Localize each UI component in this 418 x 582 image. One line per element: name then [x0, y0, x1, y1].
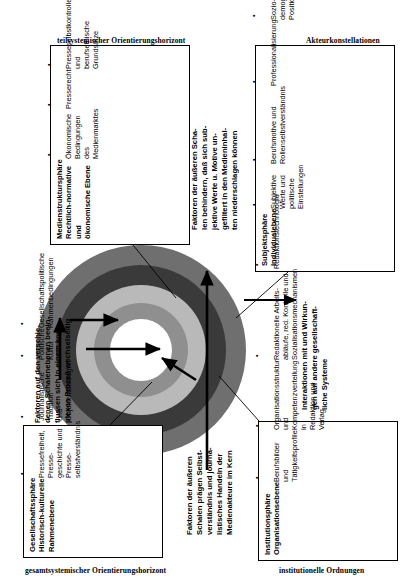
list-item-label: Presseselbstkontrolle und berufsethische… — [55, 0, 100, 69]
bullet-icon: • — [18, 415, 27, 417]
list-item: •Berufsbilder und Tätigkeitsprofile — [263, 430, 391, 482]
list-item-label: Berufsbilder und Tätigkeitsprofile — [263, 430, 299, 482]
bullet-icon: • — [250, 81, 259, 83]
box-heading-institutionssphaere: Institutionsphäre Organisationsebene — [263, 482, 390, 555]
bullet-icon: • — [253, 476, 262, 478]
bullet-icon: • — [250, 159, 259, 161]
list-item-label: Presserecht — [55, 69, 73, 108]
list-item: •Ökonomische Bedingungen des Medienmarkt… — [55, 109, 183, 160]
bullet-icon: • — [18, 472, 27, 474]
list-item-label: Redaktionstechnologie — [263, 194, 281, 269]
bullet-icon: • — [45, 154, 54, 156]
list-item: •Professionalisierung — [260, 20, 388, 87]
list-item: •Redaktionstechnologie — [263, 194, 391, 269]
list-item-label: Ökonomische Bedingungen des Medienmarkte… — [55, 109, 100, 160]
annotation-schalenebenen: Faktoren auf den verschie- denen Schalen… — [33, 258, 73, 423]
list-item: •Pressefreiheit, Presse- geschichte und … — [28, 421, 156, 478]
bullet-icon: • — [18, 323, 27, 325]
list-item-label: Redaktionelle Arbeits- abläufe, red. Kon… — [263, 269, 299, 360]
list-item: •Sozio-demographische Position — [260, 0, 388, 20]
bullet-icon: • — [45, 103, 54, 105]
arrow-into-core — [162, 358, 196, 380]
bullet-icon: • — [45, 64, 54, 66]
list-item: •Presserecht — [55, 69, 183, 108]
list-item: •Berufsmotive und Rollenselbstverständni… — [260, 86, 388, 164]
box-list-subjektsphaere: •Subjektive Werte und politische Einstel… — [260, 0, 390, 209]
box-medienstruktursphaere[interactable]: Medienstruktursphäre Rechtlich-normative… — [50, 45, 190, 245]
bullet-icon: • — [250, 203, 259, 205]
list-item-label: Pressefreiheit, Presse- geschichte und P… — [28, 421, 82, 478]
bullet-icon: • — [253, 263, 262, 265]
annotation-interaktionen: Interaktionen mit und Wirkun- gen auf an… — [300, 290, 330, 410]
list-item-label: Berufsmotive und Rollenselbstverständnis — [260, 86, 287, 164]
list-item-label: Sozio-demographische Position — [260, 0, 296, 20]
list-item-label: Professionalisierung — [260, 20, 278, 87]
bullet-icon: • — [253, 425, 262, 427]
box-list-medienstruktursphaere: •Ökonomische Bedingungen des Medienmarkt… — [55, 0, 185, 159]
box-institutionssphaere[interactable]: Institutionsphäre Organisationsebene •Be… — [258, 421, 398, 561]
bullet-icon: • — [18, 354, 27, 356]
box-heading-gesellschaftssphaere: Gesellschaftssphäre Historisch-kulturell… — [28, 478, 155, 552]
box-gesellschaftssphaere[interactable]: Gesellschaftssphäre Historisch-kulturell… — [23, 425, 163, 558]
annotation-aussere-schalen-selbstverstaendnis: Faktoren der äußeren Schalen prägen Selb… — [185, 385, 235, 535]
box-heading-medienstruktursphaere: Medienstruktursphäre Rechtlich-normative… — [55, 159, 182, 239]
bullet-icon: • — [250, 14, 259, 16]
bullet-icon: • — [253, 354, 262, 356]
list-item: •Presseselbstkontrolle und berufsethisch… — [55, 0, 183, 69]
annotation-aussere-schalen-subjektiv: Faktoren der äußeren Scha- len behindern… — [190, 40, 240, 230]
